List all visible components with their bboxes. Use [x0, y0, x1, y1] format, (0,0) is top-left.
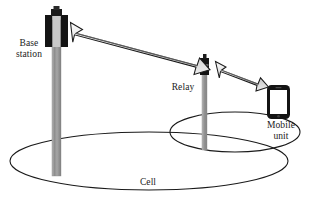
relay-mobile-arrow-highlight — [222, 70, 259, 84]
relay-mobile-double-arrow — [216, 62, 269, 92]
mobile-unit-home-button — [277, 115, 280, 118]
mobile-unit-speaker — [276, 87, 282, 88]
base-station-antenna-cap — [51, 9, 62, 16]
mobile-unit-icon — [267, 85, 290, 119]
label-base-station-line2: station — [6, 49, 52, 60]
base-relay-double-arrow — [71, 23, 211, 75]
base-relay-arrow-highlight — [76, 33, 197, 65]
link-relay-mobile-arrow — [216, 62, 269, 92]
diagram-canvas: Base station Relay Mobile unit Cell — [0, 0, 316, 197]
label-base-station-line1: Base — [6, 38, 52, 49]
base-station-icon — [45, 6, 68, 176]
mobile-unit-screen — [270, 90, 287, 114]
label-mobile-unit-line1: Mobile — [258, 120, 304, 131]
diagram-svg — [0, 0, 316, 197]
relay-antenna-tip — [203, 54, 207, 59]
label-cell: Cell — [126, 177, 170, 188]
label-base-station: Base station — [6, 38, 52, 59]
base-station-antenna-core — [53, 15, 61, 47]
relay-mast — [202, 62, 207, 150]
link-base-relay-arrow — [71, 23, 211, 75]
label-relay: Relay — [166, 82, 200, 93]
label-mobile-unit-line2: unit — [258, 131, 304, 142]
base-station-antenna-right — [61, 15, 69, 47]
label-mobile-unit: Mobile unit — [258, 120, 304, 141]
base-station-antenna-tip — [54, 6, 60, 10]
